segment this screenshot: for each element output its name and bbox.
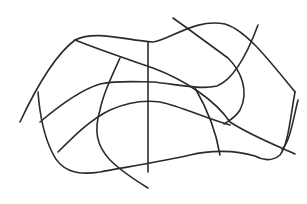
line-diagonal-upper bbox=[75, 40, 295, 154]
line-lower-horizontal bbox=[58, 101, 230, 152]
line-sketch-canvas bbox=[0, 0, 307, 204]
line-middle-horizontal bbox=[40, 25, 258, 122]
line-network-drawing bbox=[0, 0, 307, 204]
line-upper-right-diagonal bbox=[173, 18, 244, 124]
